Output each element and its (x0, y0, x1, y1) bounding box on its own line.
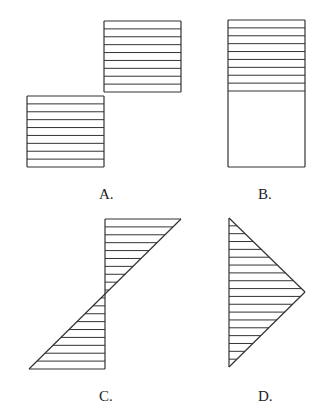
figure-a-step-rectangles (27, 21, 181, 167)
label-c: C. (99, 389, 113, 404)
figure-b-half-hatched-rectangle (228, 20, 305, 167)
figure-c-opposite-triangles (29, 219, 181, 369)
label-a: A. (99, 187, 114, 202)
label-d: D. (258, 389, 273, 404)
label-b: B. (258, 187, 272, 202)
diagram-canvas (0, 0, 329, 418)
figure-d-right-pointing-triangle (229, 218, 305, 367)
